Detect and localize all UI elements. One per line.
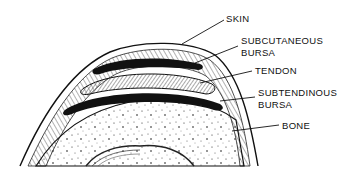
bone-label: BONE	[282, 120, 310, 131]
subcutaneous-bursa-label-line1: SUBCUTANEOUS	[241, 35, 323, 46]
tendon-label: TENDON	[255, 65, 297, 76]
skin-leader	[182, 20, 224, 44]
subtendinous-bursa-label-line2: BURSA	[258, 99, 292, 110]
subtendinous-bursa-label-line1: SUBTENDINOUS	[258, 87, 337, 98]
bursa-diagram: SKIN SUBCUTANEOUS BURSA TENDON SUBTENDIN…	[0, 0, 348, 181]
subcutaneous-bursa-label-line2: BURSA	[241, 47, 275, 58]
skin-label: SKIN	[226, 13, 249, 24]
